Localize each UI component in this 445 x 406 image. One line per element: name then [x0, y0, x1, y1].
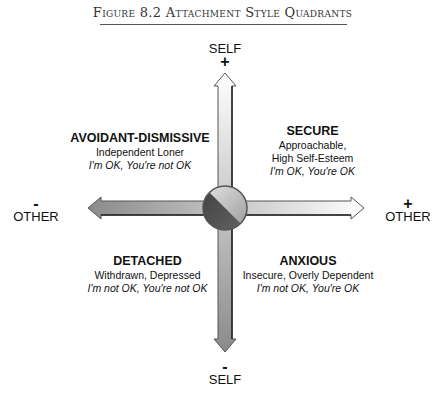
quadrant-title: DETACHED [75, 254, 220, 269]
quadrant-motto: I'm not OK, You're OK [233, 282, 383, 295]
center-circle-icon [195, 178, 255, 238]
quadrant-description-line-1: Approachable, [250, 139, 375, 152]
quadrant-motto: I'm OK, You're not OK [65, 159, 215, 172]
axis-label-text: SELF [209, 372, 242, 387]
quadrant-motto: I'm OK, You're OK [250, 165, 375, 178]
quadrant-detached: DETACHED Withdrawn, Depressed I'm not OK… [75, 254, 220, 295]
quadrant-description: Independent Loner [65, 146, 215, 159]
axis-label-self-positive: SELF + [195, 42, 255, 68]
axis-label-text: OTHER [13, 209, 59, 224]
quadrant-description-line-2: High Self-Esteem [250, 152, 375, 165]
quadrant-title: SECURE [250, 124, 375, 139]
quadrant-title: ANXIOUS [233, 254, 383, 269]
plus-sign: + [195, 55, 255, 68]
axis-label-other-negative: - OTHER [10, 197, 62, 223]
quadrant-title: AVOIDANT-DISMISSIVE [65, 131, 215, 146]
axis-label-text: OTHER [385, 209, 431, 224]
axis-label-other-positive: + OTHER [378, 197, 438, 223]
axis-label-self-negative: - SELF [195, 360, 255, 386]
quadrant-avoidant-dismissive: AVOIDANT-DISMISSIVE Independent Loner I'… [65, 131, 215, 172]
quadrant-description: Withdrawn, Depressed [75, 269, 220, 282]
quadrant-secure: SECURE Approachable, High Self-Esteem I'… [250, 124, 375, 178]
quadrant-motto: I'm not OK, You're not OK [75, 282, 220, 295]
quadrant-description: Insecure, Overly Dependent [233, 269, 383, 282]
quadrant-anxious: ANXIOUS Insecure, Overly Dependent I'm n… [233, 254, 383, 295]
